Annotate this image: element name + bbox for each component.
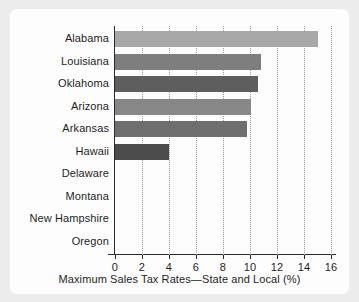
bar-row: Oklahoma (115, 73, 331, 96)
bar (115, 99, 251, 115)
y-category-label: Delaware (62, 167, 109, 179)
bar-row: Montana (115, 186, 331, 209)
y-category-label: Oregon (72, 235, 109, 247)
y-category-label: Arkansas (62, 122, 109, 134)
chart-figure: 0246810121416 AlabamaLouisianaOklahomaAr… (10, 9, 349, 294)
bar (115, 144, 169, 160)
y-category-label: New Hampshire (29, 212, 109, 224)
gridline (331, 26, 332, 255)
bar-row: Alabama (115, 28, 331, 51)
bar-row: Hawaii (115, 141, 331, 164)
bar-row: Louisiana (115, 51, 331, 74)
bar-row: Oregon (115, 231, 331, 254)
x-tick-label: 6 (184, 261, 208, 273)
x-tick-label: 0 (103, 261, 127, 273)
bar-row: Arkansas (115, 118, 331, 141)
bar-row: Arizona (115, 96, 331, 119)
bar (115, 121, 247, 137)
y-category-label: Alabama (65, 32, 109, 44)
bar (115, 54, 261, 70)
x-tick-label: 16 (319, 261, 343, 273)
x-tick-label: 12 (265, 261, 289, 273)
x-tick-label: 4 (157, 261, 181, 273)
y-category-label: Oklahoma (58, 77, 109, 89)
x-tick-mark (331, 255, 332, 259)
x-tick-mark (277, 255, 278, 259)
bar-row: New Hampshire (115, 208, 331, 231)
x-tick-mark (115, 255, 116, 259)
y-category-label: Montana (65, 190, 109, 202)
x-axis-title: Maximum Sales Tax Rates—State and Local … (10, 273, 349, 285)
x-tick-label: 10 (238, 261, 262, 273)
x-tick-mark (142, 255, 143, 259)
x-tick-mark (169, 255, 170, 259)
x-tick-label: 8 (211, 261, 235, 273)
bar (115, 31, 318, 47)
x-tick-mark (196, 255, 197, 259)
x-tick-mark (250, 255, 251, 259)
x-tick-label: 14 (292, 261, 316, 273)
x-tick-label: 2 (130, 261, 154, 273)
y-category-label: Louisiana (61, 55, 109, 67)
plot-area: AlabamaLouisianaOklahomaArizonaArkansasH… (115, 28, 331, 253)
bar (115, 76, 258, 92)
x-tick-mark (304, 255, 305, 259)
bar-row: Delaware (115, 163, 331, 186)
x-tick-mark (223, 255, 224, 259)
y-category-label: Hawaii (75, 145, 109, 157)
y-category-label: Arizona (71, 100, 109, 112)
